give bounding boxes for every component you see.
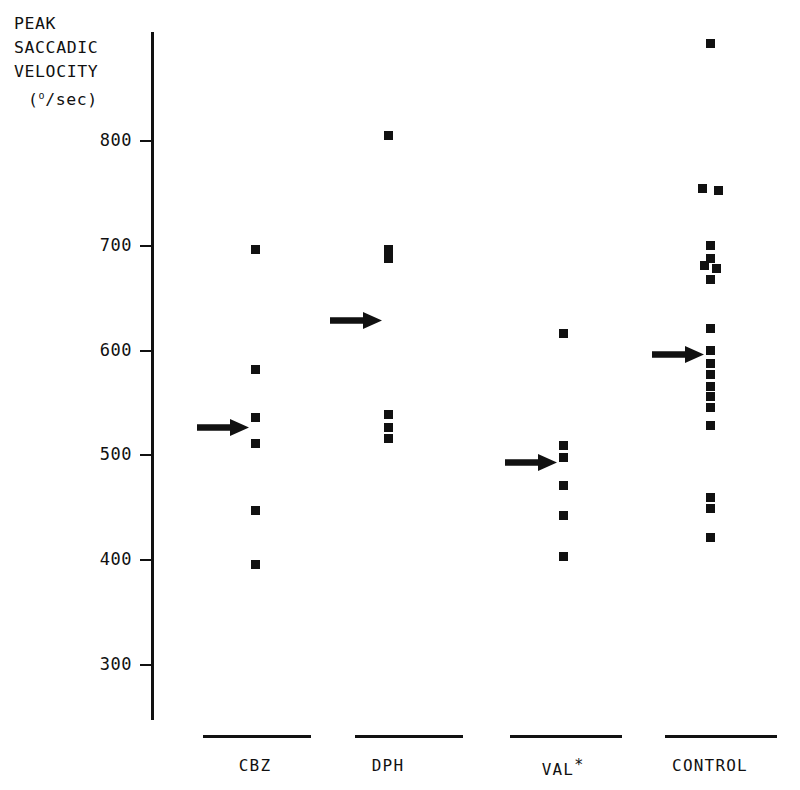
data-point	[559, 481, 568, 490]
data-point	[706, 421, 715, 430]
data-point	[559, 329, 568, 338]
saccadic-velocity-chart: PEAK SACCADIC VELOCITY (o/sec) 300400500…	[0, 0, 800, 790]
data-point	[384, 434, 393, 443]
data-point	[706, 241, 715, 250]
data-point	[706, 504, 715, 513]
data-point	[706, 493, 715, 502]
group-label-val: VAL*	[483, 758, 643, 778]
data-point	[706, 346, 715, 355]
group-bar-val	[510, 735, 622, 738]
group-bar-cbz	[203, 735, 311, 738]
data-point	[251, 560, 260, 569]
data-point	[714, 186, 723, 195]
mean-arrow-val	[505, 454, 557, 475]
group-bar-dph	[355, 735, 463, 738]
data-point	[706, 392, 715, 401]
data-point	[251, 439, 260, 448]
data-point	[559, 552, 568, 561]
data-point	[706, 382, 715, 391]
group-bar-control	[665, 735, 777, 738]
data-point	[706, 275, 715, 284]
data-point	[559, 511, 568, 520]
data-point	[251, 413, 260, 422]
data-point	[384, 254, 393, 263]
data-point	[698, 184, 707, 193]
mean-arrow-dph	[330, 312, 382, 333]
data-point	[706, 533, 715, 542]
data-point	[706, 324, 715, 333]
data-point	[384, 410, 393, 419]
data-point	[706, 39, 715, 48]
data-point	[706, 370, 715, 379]
mean-arrow-cbz	[197, 419, 249, 440]
data-point	[559, 441, 568, 450]
data-point	[712, 264, 721, 273]
data-point	[251, 365, 260, 374]
significance-asterisk: *	[574, 756, 584, 774]
data-point	[559, 453, 568, 462]
data-point	[384, 131, 393, 140]
group-label-dph: DPH	[308, 758, 468, 774]
group-label-control: CONTROL	[630, 758, 790, 774]
data-point	[706, 403, 715, 412]
data-point	[384, 423, 393, 432]
data-point	[251, 506, 260, 515]
plot-area	[0, 0, 800, 790]
data-point	[251, 245, 260, 254]
mean-arrow-control	[652, 346, 704, 367]
data-point	[706, 359, 715, 368]
data-point	[700, 261, 709, 270]
